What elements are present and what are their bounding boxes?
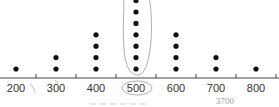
x-tick-label-800: 800 <box>247 82 265 94</box>
dot-600-3 <box>173 44 178 49</box>
x-tick-label-200: 200 <box>7 82 25 94</box>
dot-500-4 <box>133 32 138 37</box>
dot-500-1 <box>133 66 138 71</box>
dot-500-7 <box>133 0 138 3</box>
dot-plot-chart: 200300400500600700800 3700 <box>0 0 279 107</box>
tick-labels: 200300400500600700800 <box>7 82 265 94</box>
x-tick-label-300: 300 <box>47 82 65 94</box>
dot-600-4 <box>173 32 178 37</box>
dot-400-4 <box>93 32 98 37</box>
dot-200-1 <box>13 66 18 71</box>
ticks-layer <box>36 74 276 78</box>
dot-400-3 <box>93 44 98 49</box>
dot-800-1 <box>253 66 258 71</box>
hand-stroke-1 <box>30 84 35 92</box>
x-tick-label-600: 600 <box>167 82 185 94</box>
dot-700-1 <box>213 66 218 71</box>
dot-500-2 <box>133 55 138 60</box>
dot-500-6 <box>133 9 138 14</box>
dot-500-5 <box>133 21 138 26</box>
x-tick-label-400: 400 <box>87 82 105 94</box>
x-tick-label-700: 700 <box>207 82 225 94</box>
dot-700-2 <box>213 55 218 60</box>
handwritten-note: 3700 <box>216 96 235 106</box>
dot-500-3 <box>133 44 138 49</box>
dot-300-2 <box>53 55 58 60</box>
annotations-layer <box>30 0 152 95</box>
dots-layer <box>13 0 258 72</box>
x-tick-label-500: 500 <box>127 82 145 94</box>
dot-300-1 <box>53 66 58 71</box>
dot-400-2 <box>93 55 98 60</box>
dot-400-1 <box>93 66 98 71</box>
dot-600-1 <box>173 66 178 71</box>
dot-600-2 <box>173 55 178 60</box>
